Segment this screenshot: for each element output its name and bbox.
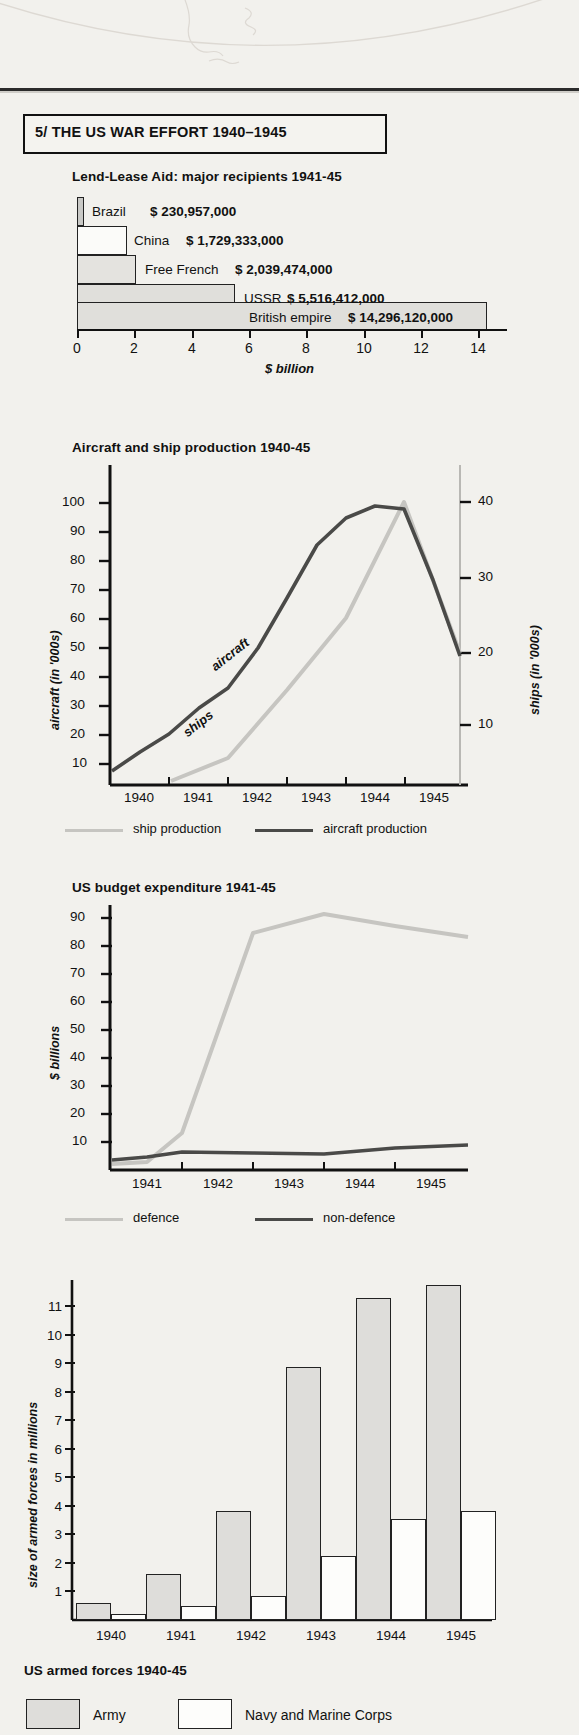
y-tick-label: 8 xyxy=(36,1385,62,1400)
y-tick-label: 30 xyxy=(70,1077,85,1092)
legend-swatch-non-defence xyxy=(255,1218,313,1221)
bar-army-1943 xyxy=(286,1367,321,1620)
legend-swatch-army xyxy=(26,1699,80,1729)
x-tick-label: 1943 xyxy=(301,790,331,805)
x-tick-label: 1944 xyxy=(360,790,390,805)
label-brazil: Brazil xyxy=(92,204,126,219)
y-tick-label: 20 xyxy=(70,726,85,741)
y-tick-label: 90 xyxy=(70,523,85,538)
header-rule xyxy=(0,88,579,91)
bar-brazil xyxy=(77,197,84,226)
x-tick-label: 1941 xyxy=(183,790,213,805)
x-tick-label: 1940 xyxy=(124,790,154,805)
bar-navy-1940 xyxy=(111,1614,146,1620)
bar-navy-1941 xyxy=(181,1606,216,1620)
bar-china xyxy=(77,226,127,255)
bar-navy-1942 xyxy=(251,1596,286,1620)
x-tick-label: 1941 xyxy=(132,1176,162,1191)
x-tick-label: 14 xyxy=(470,340,486,356)
decorative-map-arc xyxy=(0,0,579,88)
legend-swatch-defence xyxy=(65,1218,123,1221)
lend-lease-title: Lend-Lease Aid: major recipients 1941-45 xyxy=(72,169,342,184)
y-tick-label: 80 xyxy=(70,937,85,952)
x-tick-label: 1942 xyxy=(203,1176,233,1191)
x-tick-label: 1943 xyxy=(306,1628,336,1643)
x-tick-label: 12 xyxy=(413,340,429,356)
y-tick-label: 70 xyxy=(70,581,85,596)
page-root: 5/ THE US WAR EFFORT 1940–1945 Lend-Leas… xyxy=(0,0,579,1735)
legend-label-non-defence: non-defence xyxy=(323,1210,395,1225)
legend-label-navy-marine: Navy and Marine Corps xyxy=(245,1707,392,1723)
x-tick-label: 0 xyxy=(73,340,81,356)
bar-army-1941 xyxy=(146,1574,181,1620)
x-tick xyxy=(478,331,480,338)
x-tick-label: 1941 xyxy=(166,1628,196,1643)
value-free-french: $ 2,039,474,000 xyxy=(235,262,333,277)
y-tick-label: 40 xyxy=(70,1049,85,1064)
y2-tick-label: 20 xyxy=(478,644,493,659)
value-china: $ 1,729,333,000 xyxy=(186,233,284,248)
y-tick-label: 50 xyxy=(70,639,85,654)
chart-us-budget-expenditure: US budget expenditure 1941-45 xyxy=(0,880,579,1260)
chart-aircraft-ship-production: Aircraft and ship production 1940-45 xyxy=(0,440,579,840)
x-tick-label: 8 xyxy=(302,340,310,356)
legend-label-defence: defence xyxy=(133,1210,179,1225)
legend-label-ship-production: ship production xyxy=(133,821,221,836)
bar-navy-1945 xyxy=(461,1511,496,1620)
lend-lease-x-axis xyxy=(77,329,507,331)
value-brazil: $ 230,957,000 xyxy=(150,204,236,219)
x-tick-label: 1942 xyxy=(242,790,272,805)
x-tick-label: 1944 xyxy=(345,1176,375,1191)
x-tick-label: 1940 xyxy=(96,1628,126,1643)
x-tick xyxy=(421,331,423,338)
bar-navy-1944 xyxy=(391,1519,426,1620)
y-tick-label: 30 xyxy=(70,697,85,712)
value-ussr: $ 5,516,412,000 xyxy=(287,291,385,306)
bar-free-french xyxy=(77,255,136,284)
y-tick-label: 9 xyxy=(36,1356,62,1371)
label-china: China xyxy=(134,233,169,248)
chart-us-armed-forces: 11 10 9 8 7 6 5 4 3 2 1 size of armed fo… xyxy=(0,1258,579,1678)
y-tick-label: 70 xyxy=(70,965,85,980)
legend-swatch-ship-production xyxy=(65,829,123,832)
y-tick-label: 20 xyxy=(70,1105,85,1120)
value-british-empire: $ 14,296,120,000 xyxy=(348,310,453,325)
x-tick-label: 1943 xyxy=(274,1176,304,1191)
label-free-french: Free French xyxy=(145,262,219,277)
page-title: 5/ THE US WAR EFFORT 1940–1945 xyxy=(35,124,287,140)
production-y-axis-label: aircraft (in '000s) xyxy=(48,630,62,730)
y2-tick-label: 30 xyxy=(478,569,493,584)
legend-label-aircraft-production: aircraft production xyxy=(323,821,427,836)
x-tick-label: 1945 xyxy=(446,1628,476,1643)
x-tick-label: 1945 xyxy=(419,790,449,805)
x-tick xyxy=(364,331,366,338)
bar-army-1944 xyxy=(356,1298,391,1620)
x-tick-label: 4 xyxy=(188,340,196,356)
x-tick xyxy=(77,331,79,338)
legend-label-army: Army xyxy=(93,1707,126,1723)
x-tick-label: 2 xyxy=(130,340,138,356)
forces-title: US armed forces 1940-45 xyxy=(24,1663,187,1678)
lend-lease-axis-title: $ billion xyxy=(0,361,579,376)
x-tick-label: 1942 xyxy=(236,1628,266,1643)
legend-swatch-navy-marine xyxy=(178,1699,232,1729)
label-british-empire: British empire xyxy=(249,310,332,325)
legend-swatch-aircraft-production xyxy=(255,829,313,832)
budget-y-axis-label: $ billions xyxy=(48,1026,62,1080)
bar-army-1940 xyxy=(76,1603,111,1620)
x-tick xyxy=(134,331,136,338)
bar-army-1942 xyxy=(216,1511,251,1620)
y-tick-label: 40 xyxy=(70,668,85,683)
section-title-box: 5/ THE US WAR EFFORT 1940–1945 xyxy=(23,114,387,154)
y-tick-label: 80 xyxy=(70,552,85,567)
y-tick-label: 10 xyxy=(72,1133,87,1148)
y-tick-label: 100 xyxy=(62,494,85,509)
y-tick-label: 60 xyxy=(70,610,85,625)
y-tick-label: 10 xyxy=(36,1328,62,1343)
label-ussr: USSR xyxy=(244,291,282,306)
x-tick xyxy=(249,331,251,338)
chart-lend-lease: Lend-Lease Aid: major recipients 1941-45… xyxy=(0,165,579,380)
y-tick-label: 90 xyxy=(70,909,85,924)
y-tick-label: 50 xyxy=(70,1021,85,1036)
forces-y-axis-label: size of armed forces in millions xyxy=(26,1402,40,1588)
